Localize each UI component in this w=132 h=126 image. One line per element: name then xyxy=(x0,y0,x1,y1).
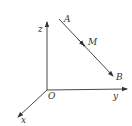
y-axis xyxy=(47,89,127,90)
y-axis-label: y xyxy=(112,91,119,101)
x-axis-label: x xyxy=(21,115,26,125)
point-a-label: A xyxy=(63,14,71,24)
z-axis-label: z xyxy=(37,24,43,34)
coordinate-diagram: z y x O A M B xyxy=(0,0,132,126)
midpoint-arrow xyxy=(78,39,84,46)
midpoint-dot xyxy=(83,45,85,47)
diagram-canvas: z y x O A M B xyxy=(0,0,132,126)
x-axis xyxy=(18,90,47,117)
origin-label: O xyxy=(48,91,56,101)
point-b-label: B xyxy=(115,72,123,82)
segment-ab xyxy=(59,19,113,76)
point-m-label: M xyxy=(87,37,98,47)
